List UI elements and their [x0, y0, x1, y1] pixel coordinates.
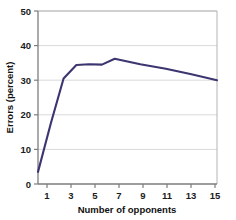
- x-axis-title: Number of opponents: [78, 204, 177, 215]
- x-tick-label-13: 13: [186, 190, 197, 201]
- y-tick-label-10: 10: [20, 144, 31, 155]
- x-tick-label-15: 15: [210, 190, 221, 201]
- x-tick-label-3: 3: [68, 190, 73, 201]
- chart-figure: 50 40 30 20 10 0 1 3 5 7 9 11 13 15 Numb…: [0, 0, 236, 220]
- x-tick-label-1: 1: [44, 190, 50, 201]
- y-axis-tick-labels: 50 40 30 20 10 0: [20, 6, 31, 190]
- line-chart: 50 40 30 20 10 0 1 3 5 7 9 11 13 15 Numb…: [0, 0, 236, 220]
- y-tick-label-0: 0: [26, 179, 31, 190]
- x-axis-tick-labels: 1 3 5 7 9 11 13 15: [44, 190, 221, 201]
- plot-background: [38, 11, 217, 184]
- y-tick-label-20: 20: [20, 109, 31, 120]
- x-tick-label-9: 9: [140, 190, 145, 201]
- x-tick-label-11: 11: [162, 190, 173, 201]
- y-axis-title: Errors (percent): [4, 62, 15, 134]
- x-tick-label-5: 5: [92, 190, 98, 201]
- y-tick-label-50: 50: [20, 6, 31, 17]
- y-tick-label-30: 30: [20, 75, 31, 86]
- x-tick-label-7: 7: [116, 190, 121, 201]
- y-tick-label-40: 40: [20, 40, 31, 51]
